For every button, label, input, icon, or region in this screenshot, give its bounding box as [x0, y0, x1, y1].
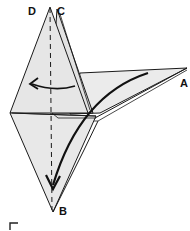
diagram-canvas: [0, 0, 190, 231]
kite-lower: [10, 113, 96, 212]
kite-upper: [10, 7, 88, 113]
label-b: B: [59, 206, 67, 217]
step-number-glyph: [10, 223, 18, 230]
label-a: A: [180, 78, 188, 89]
label-c: C: [57, 6, 65, 17]
label-d: D: [28, 6, 36, 17]
